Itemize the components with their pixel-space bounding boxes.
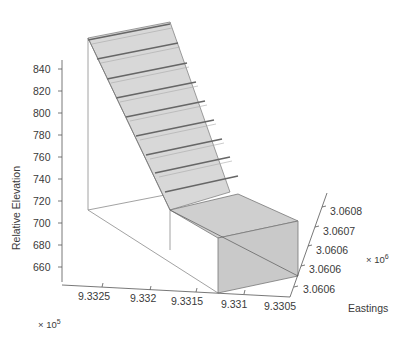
z-axis-label: Relative Elevation	[10, 166, 22, 250]
z-tick-780: 780	[33, 129, 51, 141]
y-tick-0: 3.0608	[330, 205, 362, 217]
stair-surface	[88, 22, 238, 210]
y-axis-label: Eastings	[348, 302, 388, 314]
z-tick-680: 680	[33, 239, 51, 251]
3d-surface-plot	[0, 0, 408, 340]
y-tick-3: 3.0606	[309, 263, 341, 275]
z-tick-760: 760	[33, 151, 51, 163]
z-tick-660: 660	[33, 261, 51, 273]
x-tick-2: 9.3315	[171, 295, 203, 307]
x-tick-0: 9.3325	[78, 290, 110, 302]
y-tick-2: 3.0606	[316, 244, 348, 256]
x-tick-1: 9.332	[130, 292, 156, 304]
z-tick-820: 820	[33, 85, 51, 97]
x-tick-3: 9.331	[221, 298, 247, 310]
y-tick-4: 3.0606	[303, 283, 335, 295]
x-tick-4: 9.3305	[264, 300, 296, 312]
z-tick-720: 720	[33, 195, 51, 207]
z-tick-800: 800	[33, 107, 51, 119]
z-tick-840: 840	[33, 63, 51, 75]
y-multiplier: × 106	[366, 253, 389, 265]
z-tick-740: 740	[33, 173, 51, 185]
y-tick-1: 3.0607	[323, 225, 355, 237]
z-tick-700: 700	[33, 217, 51, 229]
x-multiplier: × 105	[38, 318, 61, 330]
